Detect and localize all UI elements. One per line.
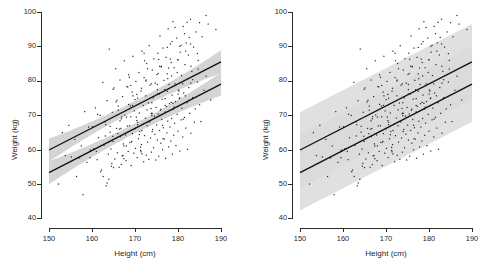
data-point bbox=[129, 77, 130, 78]
data-point bbox=[119, 167, 120, 168]
data-point bbox=[402, 83, 403, 84]
data-point bbox=[210, 99, 211, 100]
data-point bbox=[415, 138, 416, 139]
data-point bbox=[431, 119, 432, 120]
data-point bbox=[184, 33, 185, 34]
y-axis-tick bbox=[288, 46, 292, 47]
data-point bbox=[158, 156, 159, 157]
data-point bbox=[58, 183, 59, 184]
data-point bbox=[178, 89, 179, 90]
data-point bbox=[138, 138, 139, 139]
data-point bbox=[136, 94, 137, 95]
data-point bbox=[174, 123, 175, 124]
data-point bbox=[419, 28, 420, 29]
data-point bbox=[445, 122, 446, 123]
data-point bbox=[422, 75, 423, 76]
data-point bbox=[428, 59, 429, 60]
data-point bbox=[369, 106, 370, 107]
data-point bbox=[383, 133, 384, 134]
y-axis-tick bbox=[288, 115, 292, 116]
data-point bbox=[421, 141, 422, 142]
data-point bbox=[358, 100, 359, 101]
data-point bbox=[208, 23, 209, 24]
data-point bbox=[428, 114, 429, 115]
data-point bbox=[313, 132, 314, 133]
data-point bbox=[421, 43, 422, 44]
data-point bbox=[379, 151, 380, 152]
data-point bbox=[392, 88, 393, 89]
data-point bbox=[441, 43, 442, 44]
data-point bbox=[124, 114, 125, 115]
data-point bbox=[378, 86, 379, 87]
data-point bbox=[340, 157, 341, 158]
data-point bbox=[130, 85, 131, 86]
data-point bbox=[378, 125, 379, 126]
data-point bbox=[413, 48, 414, 49]
data-point bbox=[370, 129, 371, 130]
data-point bbox=[435, 33, 436, 34]
data-point bbox=[169, 126, 170, 127]
data-point bbox=[150, 137, 151, 138]
data-point bbox=[377, 145, 378, 146]
data-point bbox=[65, 155, 66, 156]
data-point bbox=[419, 67, 420, 68]
y-tick-label: 100 bbox=[14, 8, 36, 16]
data-point bbox=[409, 156, 410, 157]
data-point bbox=[146, 63, 147, 64]
data-point bbox=[71, 156, 72, 157]
data-point bbox=[438, 149, 439, 150]
data-point bbox=[139, 131, 140, 132]
data-point bbox=[414, 127, 415, 128]
data-point bbox=[402, 113, 403, 114]
x-axis-tick bbox=[429, 228, 430, 232]
data-point bbox=[386, 148, 387, 149]
data-point bbox=[424, 135, 425, 136]
data-point bbox=[388, 124, 389, 125]
data-point bbox=[146, 109, 147, 110]
data-point bbox=[430, 97, 431, 98]
data-point bbox=[152, 129, 153, 130]
data-point bbox=[413, 138, 414, 139]
data-point bbox=[423, 103, 424, 104]
data-point bbox=[111, 166, 112, 167]
data-point bbox=[100, 115, 101, 116]
data-point bbox=[384, 153, 385, 154]
data-point bbox=[116, 100, 117, 101]
data-point bbox=[153, 58, 154, 59]
data-point bbox=[143, 105, 144, 106]
data-point bbox=[128, 151, 129, 152]
data-point bbox=[366, 68, 367, 69]
data-point bbox=[168, 28, 169, 29]
data-point bbox=[117, 133, 118, 134]
x-axis-tick bbox=[300, 228, 301, 232]
data-point bbox=[374, 145, 375, 146]
x-tick-label: 170 bbox=[371, 235, 401, 243]
data-point bbox=[135, 81, 136, 82]
data-point bbox=[167, 78, 168, 79]
data-point bbox=[179, 151, 180, 152]
data-point bbox=[361, 132, 362, 133]
data-point bbox=[119, 120, 120, 121]
data-point bbox=[402, 102, 403, 103]
data-point bbox=[435, 64, 436, 65]
data-point bbox=[62, 132, 63, 133]
data-point bbox=[348, 159, 349, 160]
data-point bbox=[163, 127, 164, 128]
data-point bbox=[418, 78, 419, 79]
data-point bbox=[411, 110, 412, 111]
data-point bbox=[448, 53, 449, 54]
x-axis-tick bbox=[221, 228, 222, 232]
data-point bbox=[148, 159, 149, 160]
data-point bbox=[136, 117, 137, 118]
data-point bbox=[391, 90, 392, 91]
data-point bbox=[397, 109, 398, 110]
data-point bbox=[185, 95, 186, 96]
data-point bbox=[391, 151, 392, 152]
data-point bbox=[124, 60, 125, 61]
data-point bbox=[107, 182, 108, 183]
data-point bbox=[394, 77, 395, 78]
data-point bbox=[121, 118, 122, 119]
data-point bbox=[434, 119, 435, 120]
data-point bbox=[395, 135, 396, 136]
data-point bbox=[139, 112, 140, 113]
